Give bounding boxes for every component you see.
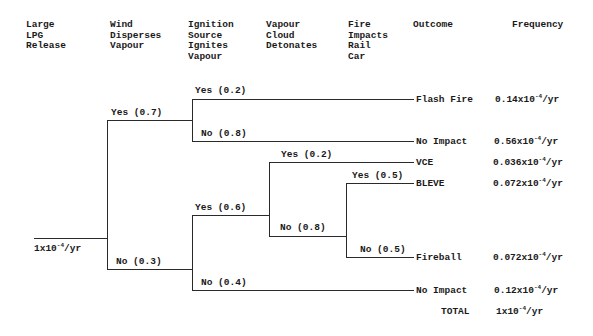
outcome-flash-fire: Flash Fire: [416, 94, 473, 105]
frequency-bleve: 0.072x10-4/yr: [493, 178, 563, 189]
outcome-no-impact-top: No Impact: [416, 136, 467, 147]
branch-label-wind-yes: Yes (0.7): [111, 107, 162, 118]
branch-label-detonation-no: No (0.8): [280, 222, 326, 233]
ignition-top-node: [192, 99, 193, 142]
frequency-flash-fire: 0.14x10-4/yr: [495, 94, 559, 105]
outcome-no-impact-bottom: No Impact: [416, 285, 467, 296]
wind-node: [107, 120, 108, 270]
total-frequency: 1x10-4/yr: [496, 306, 543, 317]
branch-label-ignition-yes-bottom: Yes (0.6): [195, 202, 246, 213]
header-vapour-detonates: Vapour Cloud Detonates: [266, 20, 317, 52]
branch-label-fire-no: No (0.5): [360, 244, 406, 255]
vce-line: [269, 162, 414, 163]
header-initiating-event: Large LPG Release: [26, 20, 66, 52]
branch-label-ignition-no-top: No (0.8): [201, 128, 247, 139]
fireball-line: [346, 257, 414, 258]
ignition-yes-line: [192, 215, 270, 216]
flash-fire-line: [192, 99, 414, 100]
fire-impact-node: [346, 183, 347, 258]
ignition-bottom-node: [192, 215, 193, 291]
branch-label-wind-no: No (0.3): [116, 256, 162, 267]
bleve-line: [346, 183, 414, 184]
total-label: TOTAL: [441, 306, 470, 317]
header-outcome: Outcome: [413, 20, 453, 31]
branch-label-ignition-yes-top: Yes (0.2): [195, 85, 246, 96]
wind-yes-line: [107, 120, 193, 121]
header-fire-impacts: Fire Impacts Rail Car: [348, 20, 388, 62]
header-ignition: Ignition Source Ignites Vapour: [188, 20, 234, 62]
branch-label-detonation-yes: Yes (0.2): [281, 149, 332, 160]
outcome-bleve: BLEVE: [416, 178, 445, 189]
wind-no-line: [107, 269, 193, 270]
root-line: [34, 238, 108, 239]
frequency-vce: 0.036x10-4/yr: [493, 157, 563, 168]
frequency-no-impact-bottom: 0.12x10-4/yr: [494, 285, 558, 296]
frequency-fireball: 0.072x10-4/yr: [493, 252, 563, 263]
outcome-fireball: Fireball: [416, 252, 462, 263]
detonation-node: [269, 162, 270, 237]
detonation-no-line: [269, 236, 347, 237]
header-wind-disperses: Wind Disperses Vapour: [110, 20, 161, 52]
no-impact-top-line: [192, 141, 414, 142]
header-frequency: Frequency: [512, 20, 563, 31]
branch-label-fire-yes: Yes (0.5): [352, 170, 403, 181]
no-impact-bottom-line: [192, 290, 414, 291]
frequency-no-impact-top: 0.56x10-4/yr: [494, 136, 558, 147]
initiating-frequency: 1x10-4/yr: [34, 243, 81, 254]
branch-label-ignition-no-bottom: No (0.4): [201, 277, 247, 288]
outcome-vce: VCE: [416, 157, 433, 168]
